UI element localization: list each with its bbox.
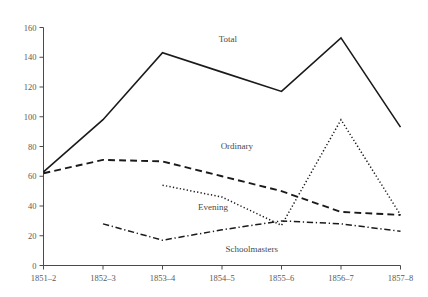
x-tick-label: 1856–7 [328, 273, 354, 283]
chart-canvas: 020406080100120140160 1851–21852–31853–4… [0, 0, 428, 297]
series-label-ordinary: Ordinary [221, 141, 254, 151]
series-label-total: Total [219, 34, 238, 44]
line-chart: 020406080100120140160 1851–21852–31853–4… [0, 0, 428, 297]
series-line-total [44, 38, 401, 172]
series-label-schoolmasters: Schoolmasters [226, 244, 279, 254]
y-tick-label: 160 [24, 23, 37, 33]
series-line-schoolmasters [103, 221, 401, 240]
y-tick-label: 40 [28, 201, 37, 211]
y-tick-label: 100 [24, 112, 37, 122]
y-tick-label: 60 [28, 171, 37, 181]
x-tick-label: 1854–5 [209, 273, 235, 283]
x-tick-label: 1857–8 [388, 273, 414, 283]
x-axis: 1851–21852–31853–41854–51855–61856–71857… [31, 266, 414, 283]
x-tick-label: 1852–3 [90, 273, 116, 283]
x-tick-label: 1855–6 [269, 273, 295, 283]
y-tick-label: 140 [24, 52, 37, 62]
series-annotations: TotalOrdinaryEveningSchoolmasters [198, 34, 278, 254]
y-tick-label: 0 [32, 261, 36, 271]
y-tick-label: 80 [28, 142, 37, 152]
y-tick-label: 20 [28, 231, 37, 241]
x-tick-label: 1851–2 [31, 273, 57, 283]
y-tick-label: 120 [24, 82, 37, 92]
x-tick-label: 1853–4 [150, 273, 176, 283]
series-label-evening: Evening [198, 202, 228, 212]
y-axis: 020406080100120140160 [24, 23, 44, 271]
